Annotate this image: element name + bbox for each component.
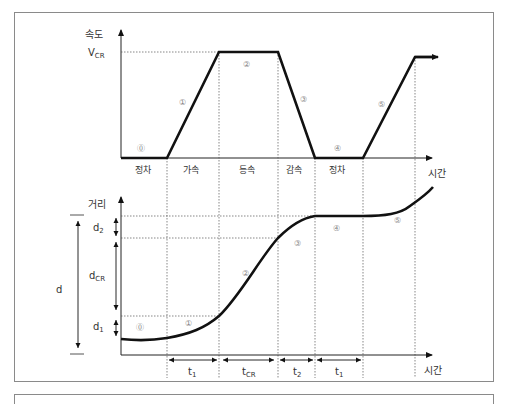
velocity-y-label: 속도	[85, 29, 103, 40]
distance-marker-5: ⑤	[394, 216, 401, 225]
t1-label: t1	[188, 366, 196, 379]
segment-marker-3: ③	[300, 95, 307, 104]
distance-chart: 거리 d d2 dCR d1 ⓪ ① ② ③ ④ ⑤ t1 tCR t2 t1 …	[56, 187, 442, 379]
distance-marker-1: ①	[185, 319, 192, 328]
velocity-x-label: 시간	[428, 168, 446, 179]
segment-marker-1: ①	[179, 98, 186, 107]
distance-marker-4: ④	[333, 224, 340, 233]
distance-marker-3: ③	[294, 239, 301, 248]
phase-label-const: 등속	[239, 165, 255, 175]
segment-marker-4: ④	[334, 144, 341, 153]
tcr-label: tCR	[242, 366, 256, 379]
phase-label-decel: 감속	[286, 164, 302, 175]
velocity-profile-line	[121, 52, 432, 158]
t2-label: t2	[293, 366, 301, 379]
segment-marker-2: ②	[243, 60, 250, 69]
d2-label: d2	[93, 222, 104, 235]
phase-label-stop-2: 정차	[329, 164, 346, 175]
dcr-label: dCR	[89, 270, 105, 283]
t1-second-label: t1	[335, 366, 343, 379]
phase-label-accel: 가속	[183, 165, 199, 175]
distance-profile-curve	[121, 187, 433, 340]
distance-marker-0: ⓪	[136, 323, 144, 332]
d-total-label: d	[56, 284, 62, 295]
distance-marker-2: ②	[242, 269, 249, 278]
distance-y-label: 거리	[88, 199, 106, 210]
phase-label-stop: 정차	[135, 164, 152, 175]
segment-marker-5: ⑤	[378, 100, 385, 109]
segment-marker-0: ⓪	[137, 144, 145, 153]
d1-label: d1	[93, 321, 104, 334]
vcr-label: VCR	[88, 47, 105, 60]
distance-x-label: 시간	[424, 365, 442, 376]
distance-guide-lines	[121, 216, 363, 316]
